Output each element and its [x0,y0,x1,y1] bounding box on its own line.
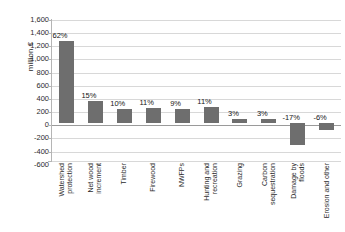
category-label-text: Carbonsequestration [261,163,276,205]
bar [290,123,305,145]
y-tick-label: 400 [3,95,49,103]
category-label-text: Firewood [149,163,157,192]
category-label-text: Net woodincrement [88,163,103,194]
category-label-text: Hunting andrecreation [203,163,218,201]
category-label: NWFPs [168,161,197,232]
y-tick-label: 800 [3,69,49,77]
y-tick-label: -600 [3,161,49,169]
bar [59,41,74,123]
category-label-text: Timber [120,163,128,185]
y-tick-label: 1,600 [3,16,49,24]
bar-group-net-wood-increment: 15% [81,20,110,161]
bar-group-carbon-sequestration: 3% [254,20,283,161]
bar-group-damage-by-floods: -17% [283,20,312,161]
bar-value-label: -6% [300,113,340,122]
category-label: Watershedprotection [52,161,81,232]
bar-group-erosion-and-other: -6% [312,20,341,161]
bar-group-nwfps: 9% [168,20,197,161]
category-label: Grazing [225,161,254,232]
bar-chart: million € 1,600 1,400 1,200 1,000 800 60… [0,0,345,232]
y-tick-label: 1,000 [3,55,49,63]
bar-value-label: 11% [185,97,225,106]
category-label: Carbonsequestration [254,161,283,232]
bar-group-hunting-and-recreation: 11% [197,20,226,161]
bar-group-firewood: 11% [139,20,168,161]
bar [232,119,247,123]
category-label: Timber [110,161,139,232]
y-tick-label: 200 [3,108,49,116]
category-label: Erosion and other [312,161,341,232]
bar [146,108,161,123]
category-label-text: Grazing [236,163,244,188]
bar [319,123,334,131]
category-label: Hunting andrecreation [197,161,226,232]
y-tick-label: -200 [3,134,49,142]
bar [175,109,190,122]
y-tick-label: 600 [3,82,49,90]
plot-area: 62% 15% 10% 11% 9% 11% 3% 3% [52,20,341,161]
bar [117,109,132,122]
y-tick-label: 1,200 [3,42,49,50]
category-label-text: NWFPs [178,163,186,187]
category-label: Damage byfloods [283,161,312,232]
category-label-text: Erosion and other [323,163,331,218]
category-label: Net woodincrement [81,161,110,232]
y-tick-label: -400 [3,148,49,156]
category-label: Firewood [139,161,168,232]
category-label-text: Watershedprotection [59,163,74,197]
y-tick-label: 0 [3,121,49,129]
bar-value-label: 62% [40,31,80,40]
bar-group-grazing: 3% [225,20,254,161]
category-label-text: Damage byfloods [290,163,305,199]
bar-group-timber: 10% [110,20,139,161]
x-axis-category-labels: Watershedprotection Net woodincrement Ti… [52,161,341,232]
